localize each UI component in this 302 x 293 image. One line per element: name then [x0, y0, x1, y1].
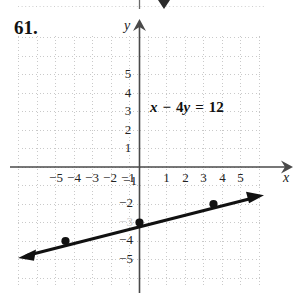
x-axis-label: x: [283, 170, 289, 186]
x-tick-label-3: 3: [197, 170, 210, 186]
y-tick-label-neg3: −3: [117, 214, 135, 230]
coordinate-plane: [0, 0, 302, 293]
y-axis-label: y: [124, 18, 130, 34]
x-tick-label-neg5: −5: [48, 170, 64, 186]
equation-coefficient: 4: [176, 99, 184, 115]
graph-figure: 61.: [0, 0, 302, 293]
x-tick-label-2: 2: [179, 170, 192, 186]
y-tick-label-neg4: −4: [117, 232, 135, 248]
y-tick-label-5: 5: [121, 66, 135, 82]
y-tick-label-neg2: −2: [117, 195, 135, 211]
x-tick-label-4: 4: [216, 170, 229, 186]
y-tick-label-4: 4: [121, 85, 135, 101]
equation-var-y: y: [184, 99, 191, 115]
equation-var-x: x: [150, 99, 158, 115]
y-tick-label-neg1: −1: [122, 173, 138, 189]
equation-minus: −: [163, 99, 172, 115]
equation-equals: =: [195, 99, 204, 115]
point-4-neg2: [209, 200, 217, 208]
x-tick-label-1: 1: [160, 170, 173, 186]
point-neg4-neg4: [61, 237, 69, 245]
y-tick-label-2: 2: [121, 122, 135, 138]
x-tick-label-neg2: −2: [102, 170, 118, 186]
x-tick-label-neg4: −4: [66, 170, 82, 186]
x-tick-label-neg3: −3: [84, 170, 100, 186]
y-tick-label-1: 1: [121, 140, 135, 156]
point-0-neg3: [135, 218, 143, 226]
equation-annotation: x−4y=12: [150, 99, 224, 116]
equation-rhs: 12: [209, 99, 224, 115]
x-tick-label-5: 5: [234, 170, 247, 186]
y-tick-label-neg5: −5: [117, 251, 135, 267]
y-tick-label-3: 3: [121, 103, 135, 119]
